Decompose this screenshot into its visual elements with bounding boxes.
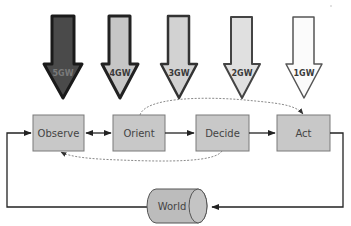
world-cylinder: World	[147, 189, 207, 223]
dashed-orient-to-act	[140, 98, 303, 115]
down-arrow-icon	[102, 16, 138, 98]
generation-arrow-1gw: 1GW	[286, 17, 322, 98]
stage-label: Orient	[123, 128, 154, 139]
generation-arrow-2gw: 2GW	[224, 17, 260, 98]
stage-orient: Orient	[113, 115, 165, 151]
down-arrow-icon	[161, 16, 197, 98]
stage-decide: Decide	[196, 115, 249, 151]
stage-label: Decide	[205, 128, 240, 139]
stage-act: Act	[277, 115, 330, 151]
ooda-diagram: 5GW 4GW 3GW 2GW 1GW Observe Orient Decid…	[0, 0, 351, 226]
generation-label: 2GW	[232, 69, 253, 78]
down-arrow-icon	[224, 17, 260, 98]
stage-label: Observe	[38, 128, 80, 139]
generation-label: 5GW	[53, 69, 74, 78]
generation-label: 3GW	[169, 69, 190, 78]
generation-arrow-4gw: 4GW	[102, 16, 138, 98]
generation-arrow-5gw: 5GW	[44, 16, 82, 98]
down-arrow-icon	[44, 16, 82, 98]
speck	[330, 5, 332, 7]
down-arrow-icon	[286, 17, 322, 98]
stage-observe: Observe	[33, 115, 84, 151]
generation-arrow-3gw: 3GW	[161, 16, 197, 98]
generation-label: 1GW	[294, 69, 315, 78]
generation-label: 4GW	[110, 69, 131, 78]
dashed-decide-to-observe	[61, 151, 222, 161]
world-label: World	[158, 201, 187, 212]
stage-label: Act	[295, 128, 311, 139]
